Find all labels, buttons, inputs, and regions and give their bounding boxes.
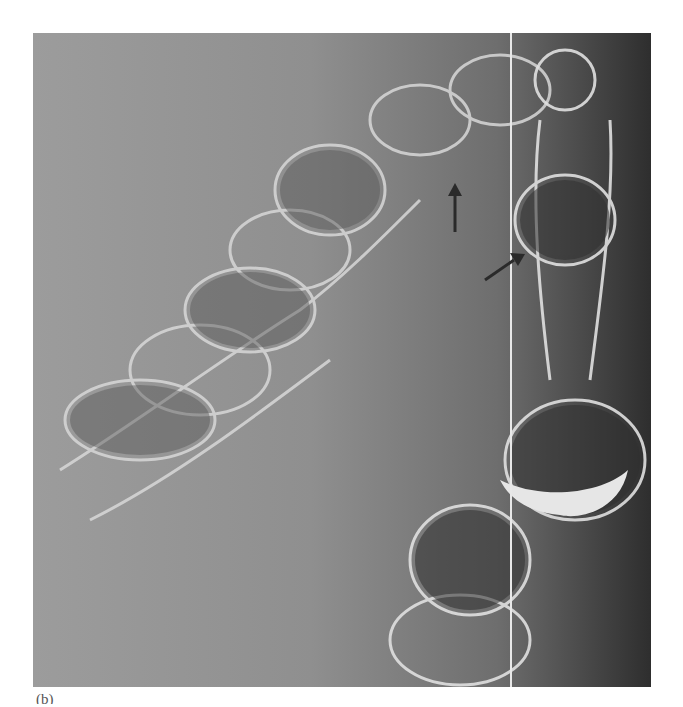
panel-label: (b) xyxy=(36,692,54,704)
radiograph-image xyxy=(33,33,651,687)
radiograph-drawing xyxy=(33,33,651,687)
